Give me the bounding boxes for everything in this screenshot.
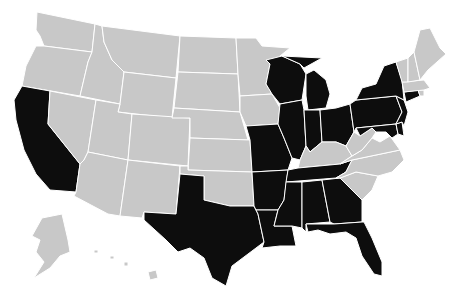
state-co: Colorado <box>128 114 190 166</box>
state-ia: Iowa <box>240 94 280 126</box>
state-oh: Ohio <box>320 104 354 146</box>
state-ks: Kansas <box>188 138 252 172</box>
state-wy: Wyoming <box>118 72 176 118</box>
state-nd: North Dakota <box>178 36 238 74</box>
us-map: WashingtonOregonCaliforniaNevadaIdahoMon… <box>0 0 459 294</box>
state-sd: South Dakota <box>174 72 240 112</box>
state-nm: New Mexico <box>120 160 180 218</box>
